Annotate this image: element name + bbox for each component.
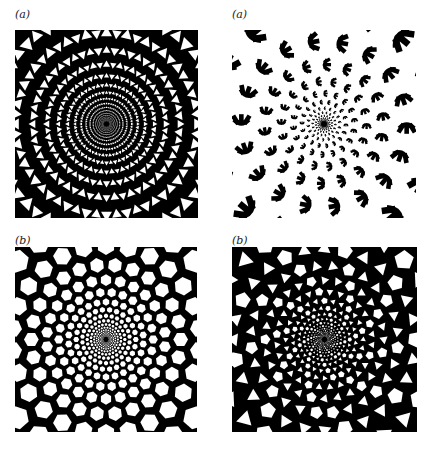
spiral-triangle-lattice-image (15, 30, 198, 218)
panel-label-bottom-left: (b) (15, 234, 31, 247)
panel-label-top-left: (a) (15, 8, 30, 21)
panel-label-bottom-right: (b) (232, 234, 248, 247)
panel-label-top-right: (a) (232, 8, 247, 21)
spiral-honeycomb-lattice-image (15, 247, 197, 432)
spiral-mixed-polygon-lattice-image (232, 247, 417, 432)
spiral-claw-motif-image (232, 30, 416, 218)
